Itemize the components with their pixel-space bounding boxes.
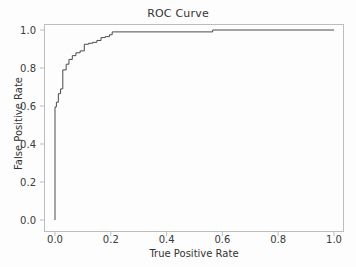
y-tick-label: 0.0 [2,215,36,226]
x-tick-label: 0.2 [91,234,131,245]
x-tick-label: 0.4 [147,234,187,245]
roc-curve-figure: ROC Curve 0.00.20.40.60.81.0 0.00.20.40.… [0,0,356,267]
x-tick-label: 0.8 [258,234,298,245]
x-axis-label: True Positive Rate [44,248,344,259]
x-tick-label: 0.0 [35,234,75,245]
y-axis-label: False Positive Rate [13,44,24,204]
roc-curve-line [55,30,334,220]
x-tick-label: 1.0 [314,234,354,245]
tick-marks [40,30,334,236]
x-tick-label: 0.6 [202,234,242,245]
y-tick-label: 1.0 [2,25,36,36]
plot-area [0,0,356,267]
